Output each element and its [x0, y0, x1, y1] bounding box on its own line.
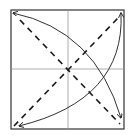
- origami-diagram: [0, 0, 130, 135]
